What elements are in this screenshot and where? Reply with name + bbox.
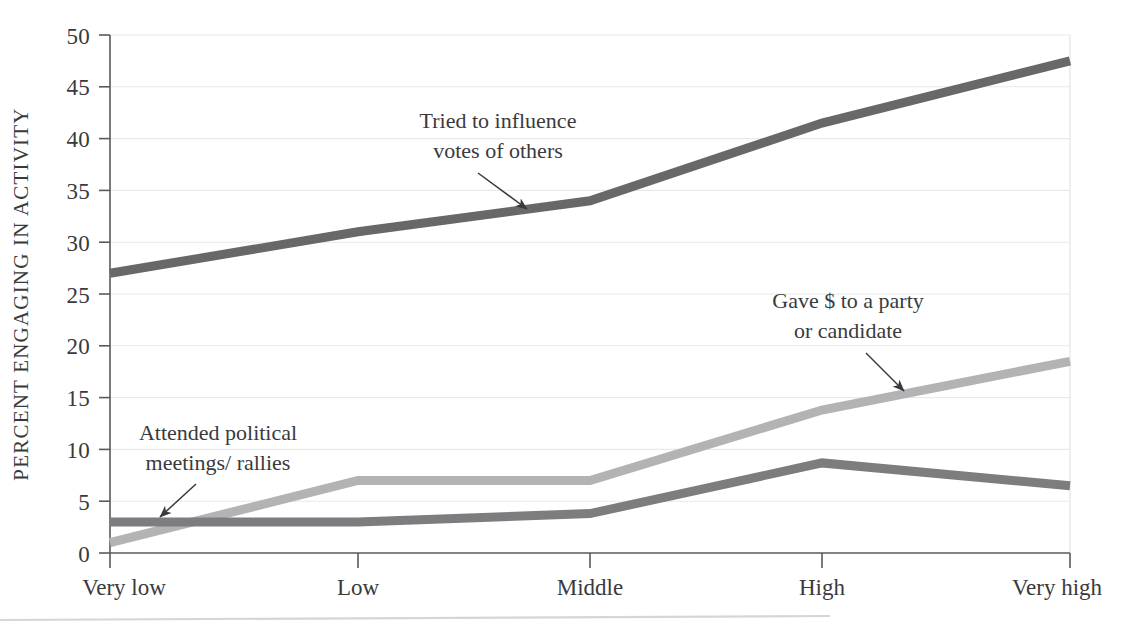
annotation-influence-line1: Tried to influence	[420, 108, 577, 133]
x-tick-label-very-high: Very high	[1012, 575, 1103, 600]
footer-divider	[0, 616, 830, 620]
chart-figure: 50 45 40 35 30 25 20 15 10 5 0 Very low …	[0, 0, 1127, 630]
y-tick-label: 10	[66, 438, 90, 463]
y-tick-marks	[99, 35, 110, 553]
annotation-gave-money-line1: Gave $ to a party	[772, 288, 924, 313]
y-tick-label: 30	[66, 231, 90, 256]
annotation-meetings-line1: Attended political	[139, 420, 297, 445]
x-tick-marks	[110, 553, 1070, 568]
x-tick-label-very-low: Very low	[82, 575, 166, 600]
y-tick-label: 0	[78, 542, 90, 567]
series-line-influence-votes	[110, 61, 1070, 273]
y-tick-label: 25	[66, 283, 90, 308]
x-tick-label-middle: Middle	[557, 575, 623, 600]
annotation-gave-money-arrow	[866, 353, 904, 391]
annotation-meetings-arrow	[160, 484, 196, 517]
annotation-gave-money-line2: or candidate	[794, 318, 902, 343]
annotation-gave-money: Gave $ to a party or candidate	[772, 288, 924, 391]
x-axis-tick-labels: Very low Low Middle High Very high	[82, 575, 1102, 600]
y-tick-label: 35	[66, 179, 90, 204]
y-axis-tick-labels: 50 45 40 35 30 25 20 15 10 5 0	[66, 24, 90, 567]
y-tick-label: 40	[66, 127, 90, 152]
annotation-influence-line2: votes of others	[433, 138, 563, 163]
annotation-meetings-line2: meetings/ rallies	[146, 450, 291, 475]
line-chart: 50 45 40 35 30 25 20 15 10 5 0 Very low …	[0, 0, 1127, 630]
x-tick-label-low: Low	[337, 575, 380, 600]
y-tick-label: 5	[78, 490, 90, 515]
annotation-influence-arrow	[478, 173, 527, 209]
y-tick-label: 20	[66, 334, 90, 359]
y-tick-label: 45	[66, 75, 90, 100]
annotation-influence-votes: Tried to influence votes of others	[420, 108, 577, 209]
y-tick-label: 50	[66, 24, 90, 49]
y-tick-label: 15	[66, 386, 90, 411]
x-tick-label-high: High	[799, 575, 846, 600]
y-axis-title: PERCENT ENGAGING IN ACTIVITY	[9, 107, 33, 480]
